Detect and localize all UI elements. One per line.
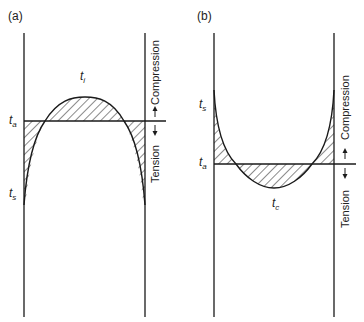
panel-a-ta-label: ta <box>9 113 17 129</box>
panel-b-tension-arrow-icon <box>343 168 348 179</box>
panel-b-hatch-right <box>312 98 334 164</box>
panel-a: (a) ti ta ts Compression Tension <box>8 9 166 317</box>
panel-a-hatch-center <box>45 97 124 121</box>
panel-a-compression-arrow-icon <box>153 106 158 117</box>
panel-a-tension-label: Tension <box>149 145 161 183</box>
panel-a-tension-arrow-icon <box>153 125 158 136</box>
panel-b-hatch-left <box>214 98 236 164</box>
panel-b-tc-label: tc <box>272 196 279 212</box>
panel-a-label: (a) <box>8 9 23 23</box>
stress-diagram: (a) ti ta ts Compression Tension (b) <box>0 0 364 322</box>
panel-b-tension-label: Tension <box>339 190 351 228</box>
panel-a-ts-label: ts <box>9 186 16 202</box>
panel-a-compression-label: Compression <box>149 40 161 105</box>
panel-b-ta-label: ta <box>199 155 207 171</box>
panel-b-ts-label: ts <box>199 97 206 113</box>
panel-a-ti-label: ti <box>80 69 85 85</box>
panel-b-compression-label: Compression <box>339 75 351 140</box>
panel-b: (b) ts ta tc Compression Tension <box>197 9 356 317</box>
panel-a-hatch-left <box>24 121 45 200</box>
panel-b-compression-arrow-icon <box>343 148 348 159</box>
panel-b-label: (b) <box>197 9 212 23</box>
panel-a-hatch-right <box>124 121 145 200</box>
